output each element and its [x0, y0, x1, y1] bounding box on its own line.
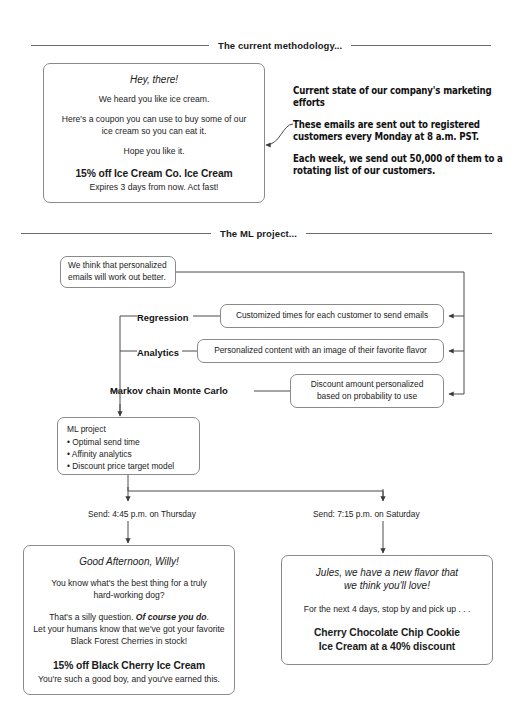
ml-project-title: ML project — [67, 424, 190, 436]
email-current-line3: Hope you like it. — [54, 145, 254, 157]
email-left-line1a: You know what's the best thing for a tru… — [31, 577, 227, 589]
email-card-current: Hey, there! We heard you like ice cream.… — [43, 63, 265, 203]
email-current-header: Hey, there! — [54, 73, 254, 86]
section-title-ml: The ML project... — [211, 228, 306, 239]
section-rule-left-2 — [21, 233, 211, 234]
method-label-regression: Regression — [137, 312, 189, 323]
hypothesis-box: We think that personalized emails will w… — [60, 256, 176, 288]
diagram-canvas: The current methodology... Hey, there! W… — [0, 0, 516, 710]
wire-blurb-to-email — [266, 124, 293, 145]
email-right-header-b: we think you'll love! — [289, 579, 485, 592]
hypothesis-line2: emails will work out better. — [68, 272, 168, 284]
email-current-line2b: ice cream so you can eat it. — [54, 125, 254, 137]
ml-project-bullet-1: • Optimal send time — [67, 436, 190, 448]
email-right-offer-b: Ice Cream at a 40% discount — [289, 640, 485, 654]
ml-project-bullet-2: • Affinity analytics — [67, 448, 190, 460]
email-right-line1: For the next 4 days, stop by and pick up… — [289, 603, 485, 615]
send-caption-right: Send: 7:15 p.m. on Saturday — [313, 509, 420, 519]
email-card-right: Jules, we have a new flavor that we thin… — [281, 555, 493, 665]
email-left-line2-post: . — [206, 612, 208, 622]
section-rule-right — [351, 45, 491, 46]
email-current-offer: 15% off Ice Cream Co. Ice Cream — [54, 167, 254, 181]
method-desc-box-regression: Customized times for each customer to se… — [220, 304, 444, 328]
method-desc-regression: Customized times for each customer to se… — [236, 310, 428, 322]
method-desc-box-analytics: Personalized content with an image of th… — [197, 339, 444, 363]
section-rule-left — [31, 45, 209, 46]
section-header-current-methodology: The current methodology... — [0, 40, 516, 51]
ml-project-box: ML project • Optimal send time • Affinit… — [57, 417, 200, 475]
method-desc-box-mcmc: Discount amount personalized based on pr… — [290, 374, 444, 408]
method-desc-mcmc-2: based on probability to use — [317, 391, 417, 403]
method-label-analytics: Analytics — [137, 347, 179, 358]
email-left-line2-emphasis: Of course you do — [136, 612, 207, 622]
email-right-offer-a: Cherry Chocolate Chip Cookie — [289, 626, 485, 640]
marketing-blurb: Current state of our company's marketing… — [293, 85, 509, 177]
method-desc-analytics: Personalized content with an image of th… — [214, 345, 427, 357]
section-title-current: The current methodology... — [209, 40, 351, 51]
method-desc-mcmc-1: Discount amount personalized — [311, 379, 424, 391]
email-left-line2-pre: That's a silly question. — [49, 612, 136, 622]
email-left-offer: 15% off Black Cherry Ice Cream — [31, 659, 227, 673]
email-current-expiry: Expires 3 days from now. Act fast! — [54, 181, 254, 193]
blurb-paragraph-2: These emails are sent out to registered … — [293, 119, 509, 144]
email-current-line2a: Here's a coupon you can use to buy some … — [54, 113, 254, 125]
email-left-line4: Black Forest Cherries in stock! — [31, 635, 227, 647]
ml-project-bullet-3: • Discount price target model — [67, 460, 190, 472]
email-left-header: Good Afternoon, Willy! — [31, 555, 227, 568]
email-left-line3: Let your humans know that we've got your… — [31, 623, 227, 635]
wire-mlproject-fanout — [128, 475, 383, 499]
email-right-header-a: Jules, we have a new flavor that — [289, 566, 485, 579]
send-caption-left: Send: 4:45 p.m. on Thursday — [88, 509, 196, 519]
email-card-left: Good Afternoon, Willy! You know what's t… — [23, 545, 235, 695]
email-current-line1: We heard you like ice cream. — [54, 93, 254, 105]
blurb-paragraph-1: Current state of our company's marketing… — [293, 85, 509, 110]
hypothesis-line1: We think that personalized — [68, 260, 168, 272]
blurb-paragraph-3: Each week, we send out 50,000 of them to… — [293, 153, 509, 178]
email-left-closing: You're such a good boy, and you've earne… — [31, 673, 227, 685]
section-rule-right-2 — [306, 233, 492, 234]
wire-left-spine — [120, 316, 137, 412]
section-header-ml-project: The ML project... — [0, 228, 516, 239]
email-left-line2: That's a silly question. Of course you d… — [31, 611, 227, 623]
email-left-line1b: hard-working dog? — [31, 589, 227, 601]
method-label-mcmc: Markov chain Monte Carlo — [110, 385, 228, 396]
